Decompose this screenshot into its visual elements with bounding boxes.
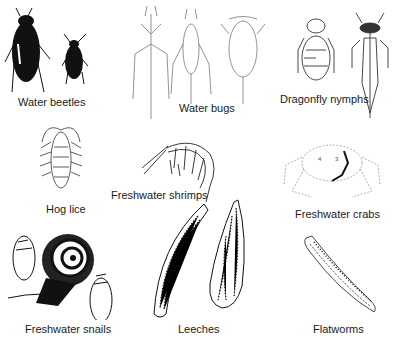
freshwater-snails-label: Freshwater snails (25, 323, 111, 335)
freshwater-crabs-illustration: 4 3 (282, 135, 382, 205)
flatworms-illustration (300, 232, 380, 317)
water-beetles-label: Water beetles (18, 96, 85, 108)
dragonfly-nymphs-label: Dragonfly nymphs (280, 93, 369, 105)
leeches-illustration (148, 196, 248, 321)
crab-annotation-3: 3 (335, 156, 339, 162)
freshwater-crabs-label: Freshwater crabs (295, 208, 380, 220)
leeches-label: Leeches (178, 323, 220, 335)
freshwater-snails-illustration (6, 228, 118, 320)
flatworms-label: Flatworms (313, 323, 364, 335)
crab-annotation-4: 4 (318, 156, 322, 162)
hog-lice-label: Hog lice (46, 203, 86, 215)
water-bugs-label: Water bugs (179, 102, 235, 114)
hog-lice-illustration (36, 122, 86, 197)
water-beetles-illustration (2, 4, 97, 94)
